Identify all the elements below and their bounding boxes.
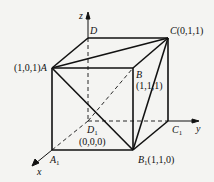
diagonal-CB1 — [133, 38, 168, 150]
vertex-C1-name: C — [172, 124, 179, 135]
vertex-D-label: D — [90, 26, 97, 36]
vertex-B1-coord: (1,1,0) — [148, 154, 175, 165]
vertex-B-coord: (1,1,1) — [136, 81, 163, 91]
vertex-C-coord: (0,1,1) — [177, 25, 204, 36]
solid-edges — [52, 38, 168, 150]
vertex-C1-sub: 1 — [179, 129, 183, 137]
vertex-A-coord: (1,0,1) — [14, 62, 41, 73]
vertex-A1-sub: 1 — [56, 159, 60, 167]
vertex-B-label: B — [136, 70, 142, 80]
vertex-D1-coord: (0,0,0) — [79, 137, 106, 147]
vertex-C-name: C — [170, 25, 177, 36]
vertex-C-label: C(0,1,1) — [170, 26, 203, 36]
z-axis-arrow-icon — [86, 12, 90, 19]
vertex-B1-label: B1(1,1,0) — [138, 155, 174, 168]
vertex-A-name: A — [41, 62, 47, 73]
diagonal-D1B-hidden — [88, 68, 133, 121]
x-axis-label: x — [37, 167, 41, 177]
y-axis-label: y — [196, 124, 200, 134]
vertex-A1-label: A1 — [50, 155, 60, 168]
vertex-C1-label: C1 — [172, 125, 182, 138]
vertex-A-label: (1,0,1)A — [14, 63, 47, 73]
z-axis-label: z — [79, 11, 83, 21]
x-axis-arrow-icon — [32, 159, 39, 166]
